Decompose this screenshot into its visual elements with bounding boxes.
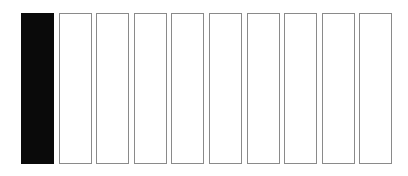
empty-cell: [171, 13, 204, 164]
empty-cell: [247, 13, 280, 164]
filled-cell: [21, 13, 54, 164]
empty-cell: [59, 13, 92, 164]
cell-row: [21, 13, 392, 164]
empty-cell: [209, 13, 242, 164]
empty-cell: [322, 13, 355, 164]
empty-cell: [359, 13, 392, 164]
empty-cell: [96, 13, 129, 164]
empty-cell: [134, 13, 167, 164]
empty-cell: [284, 13, 317, 164]
